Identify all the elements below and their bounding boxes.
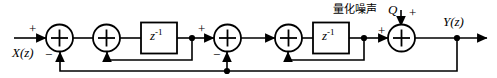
quantization-noise-label: 量化噪声 xyxy=(333,4,377,15)
delay-1-exponent: -1 xyxy=(155,27,163,37)
diagram-canvas xyxy=(0,0,497,78)
summer-5-top-plus-sign: + xyxy=(409,6,416,19)
delay-2-label: z-1 xyxy=(322,28,335,42)
input-plus-sign: + xyxy=(29,22,36,35)
tap-output xyxy=(454,35,460,41)
noise-symbol-label: Q xyxy=(388,3,397,16)
summer-3-minus-sign: − xyxy=(213,48,220,61)
tap-outer-feedback-branch xyxy=(224,68,230,74)
summer-3-plus-sign: + xyxy=(198,22,205,35)
tap-after-delay-1 xyxy=(189,35,195,41)
delay-1-label: z-1 xyxy=(150,28,163,42)
signal-flow-diagram: X(z) Y(z) 量化噪声 Q z-1 z-1 + − + − + + xyxy=(0,0,497,78)
output-label: Y(z) xyxy=(443,15,464,28)
summer-5-left-plus-sign: + xyxy=(378,24,385,37)
tap-after-delay-2 xyxy=(361,35,367,41)
delay-2-exponent: -1 xyxy=(327,27,335,37)
input-label: X(z) xyxy=(12,46,34,59)
summer-1-minus-sign: − xyxy=(45,48,52,61)
